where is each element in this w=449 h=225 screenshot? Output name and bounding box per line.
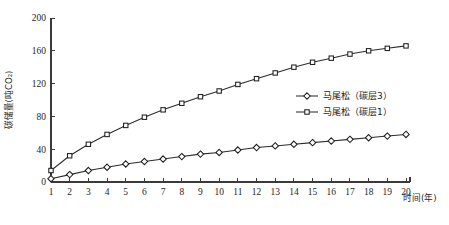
data-point-marker — [235, 147, 241, 153]
x-tick-label: 12 — [252, 187, 262, 197]
series-carbon-layer-3 — [48, 131, 409, 182]
data-point-marker — [85, 167, 91, 173]
y-axis-title: 碳储量(吨CO₂) — [3, 71, 14, 130]
data-point-marker — [292, 65, 296, 69]
x-tick-label: 16 — [327, 187, 337, 197]
data-point-marker — [329, 56, 333, 60]
x-tick-label: 1 — [49, 187, 54, 197]
data-point-marker — [123, 161, 129, 167]
data-point-marker — [365, 135, 371, 141]
x-tick-label: 4 — [105, 187, 110, 197]
series-path — [51, 134, 406, 178]
data-point-marker — [384, 133, 390, 139]
data-point-marker — [197, 151, 203, 157]
data-point-marker — [66, 171, 72, 177]
x-tick-label: 18 — [364, 187, 374, 197]
legend-label: 马尾松（碳层1） — [323, 106, 392, 117]
data-point-marker — [160, 156, 166, 162]
legend-item — [296, 110, 318, 114]
data-point-marker — [348, 52, 352, 56]
data-point-marker — [86, 142, 90, 146]
chart-legend: 马尾松（碳层3）马尾松（碳层1） — [296, 90, 392, 117]
data-point-marker — [49, 168, 53, 172]
legend-marker-icon — [305, 110, 309, 114]
data-point-marker — [198, 95, 202, 99]
data-point-marker — [180, 101, 184, 105]
legend-label: 马尾松（碳层3） — [323, 90, 392, 101]
y-tick-label: 200 — [32, 13, 47, 23]
data-point-marker — [272, 143, 278, 149]
data-point-marker — [67, 154, 71, 158]
carbon-storage-line-chart: 04080120160200 1234567891011121314151617… — [0, 0, 449, 225]
data-point-marker — [105, 132, 109, 136]
x-axis-ticks: 1234567891011121314151617181920 — [49, 178, 411, 197]
data-point-marker — [48, 176, 54, 182]
data-point-marker — [216, 149, 222, 155]
data-point-marker — [385, 46, 389, 50]
data-point-marker — [104, 164, 110, 170]
data-point-marker — [124, 123, 128, 127]
chart-container: 04080120160200 1234567891011121314151617… — [0, 0, 449, 225]
x-tick-label: 15 — [308, 187, 318, 197]
x-tick-label: 10 — [214, 187, 224, 197]
data-point-marker — [254, 76, 258, 80]
data-point-marker — [161, 108, 165, 112]
x-tick-label: 19 — [383, 187, 393, 197]
x-tick-label: 7 — [161, 187, 166, 197]
x-tick-label: 6 — [142, 187, 147, 197]
data-point-marker — [253, 144, 259, 150]
y-tick-label: 0 — [41, 177, 46, 187]
data-point-marker — [403, 131, 409, 137]
x-tick-label: 2 — [67, 187, 72, 197]
data-point-marker — [328, 138, 334, 144]
y-tick-label: 40 — [37, 145, 47, 155]
y-tick-label: 160 — [32, 46, 47, 56]
x-axis-title: 时间(年) — [403, 192, 437, 203]
data-point-marker — [273, 71, 277, 75]
data-point-marker — [142, 115, 146, 119]
y-tick-label: 120 — [32, 79, 47, 89]
data-point-marker — [179, 153, 185, 159]
y-tick-label: 80 — [37, 112, 47, 122]
data-point-marker — [347, 136, 353, 142]
x-tick-label: 5 — [123, 187, 128, 197]
data-point-marker — [366, 49, 370, 53]
data-point-marker — [217, 89, 221, 93]
data-point-marker — [309, 139, 315, 145]
data-point-marker — [310, 60, 314, 64]
x-tick-label: 14 — [289, 187, 299, 197]
data-point-marker — [404, 44, 408, 48]
legend-item — [296, 93, 318, 99]
data-point-marker — [141, 158, 147, 164]
x-tick-label: 17 — [345, 187, 355, 197]
legend-marker-icon — [304, 93, 310, 99]
data-point-marker — [291, 141, 297, 147]
data-point-marker — [236, 82, 240, 86]
x-tick-label: 8 — [179, 187, 184, 197]
x-tick-label: 9 — [198, 187, 203, 197]
x-tick-label: 3 — [86, 187, 91, 197]
x-tick-label: 13 — [270, 187, 280, 197]
x-tick-label: 11 — [233, 187, 242, 197]
